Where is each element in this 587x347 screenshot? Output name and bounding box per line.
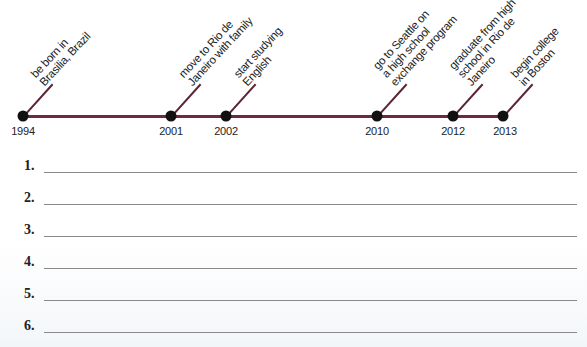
year-label: 2012: [441, 125, 465, 137]
timeline-dot: [372, 111, 383, 122]
answer-blank-4[interactable]: [44, 268, 577, 269]
answer-number: 3.: [24, 222, 35, 238]
answer-row-4: 4.: [0, 252, 587, 272]
timeline-dot: [221, 111, 232, 122]
timeline-dot: [448, 111, 459, 122]
answer-row-2: 2.: [0, 188, 587, 208]
answer-blank-2[interactable]: [44, 204, 577, 205]
year-label: 2001: [159, 125, 183, 137]
answer-number: 4.: [24, 254, 35, 270]
timeline-dot: [166, 111, 177, 122]
answer-blank-6[interactable]: [44, 332, 577, 333]
timeline-dot: [498, 111, 509, 122]
answer-blank-3[interactable]: [44, 236, 577, 237]
answer-number: 5.: [24, 286, 35, 302]
answer-blank-1[interactable]: [44, 172, 577, 173]
timeline-dot: [18, 111, 29, 122]
answer-row-6: 6.: [0, 316, 587, 336]
answer-blank-5[interactable]: [44, 300, 577, 301]
answer-row-5: 5.: [0, 284, 587, 304]
year-label: 1994: [11, 125, 35, 137]
answer-row-3: 3.: [0, 220, 587, 240]
timeline-axis: [23, 115, 505, 118]
year-label: 2002: [214, 125, 238, 137]
event-label: go to Seattle on a high school exchange …: [371, 0, 459, 88]
event-label: be born in Brasilia, Brazil: [28, 22, 92, 88]
answer-number: 6.: [24, 318, 35, 334]
answer-row-1: 1.: [0, 156, 587, 176]
answer-number: 1.: [24, 158, 35, 174]
answer-number: 2.: [24, 190, 35, 206]
year-label: 2013: [493, 125, 517, 137]
year-label: 2010: [365, 125, 389, 137]
